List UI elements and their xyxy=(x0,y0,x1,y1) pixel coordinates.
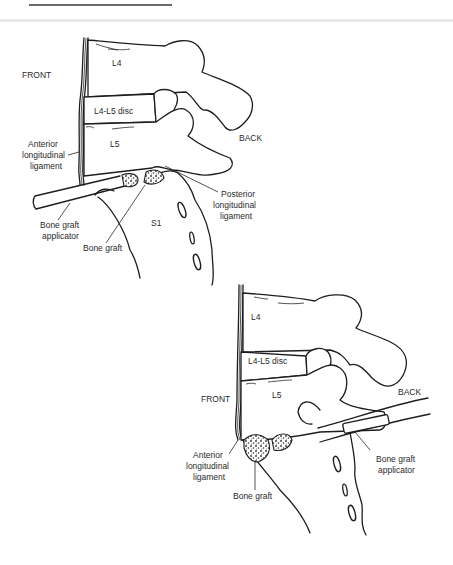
label-back-top: BACK xyxy=(239,133,262,143)
label-l5-top: L5 xyxy=(110,139,120,149)
svg-text:ligament: ligament xyxy=(220,211,253,221)
svg-text:Anterior: Anterior xyxy=(193,450,223,460)
label-back-bottom: BACK xyxy=(398,387,421,397)
svg-text:Bone graft: Bone graft xyxy=(83,243,123,253)
label-bone-graft-top: Bone graft xyxy=(83,185,145,253)
label-l4-bottom: L4 xyxy=(251,312,261,322)
label-posterior-ligament-top: Posterior longitudinal ligament xyxy=(213,189,256,221)
svg-text:Bone graft: Bone graft xyxy=(233,491,273,501)
svg-text:Posterior: Posterior xyxy=(221,189,255,199)
label-front-bottom: FRONT xyxy=(201,394,230,404)
svg-text:Anterior: Anterior xyxy=(28,139,58,149)
label-disc-top: L4-L5 disc xyxy=(94,106,134,116)
svg-text:longitudinal: longitudinal xyxy=(213,200,256,210)
bone-graft-top xyxy=(122,174,138,187)
figure-bottom: L4 L4-L5 disc L5 FRONT BACK Anterior lon… xyxy=(186,285,430,535)
svg-text:longitudinal: longitudinal xyxy=(186,461,229,471)
svg-text:Bone graft: Bone graft xyxy=(40,220,80,230)
label-l4-top: L4 xyxy=(112,58,122,68)
svg-text:ligament: ligament xyxy=(30,161,63,171)
svg-text:ligament: ligament xyxy=(193,472,226,482)
svg-text:applicator: applicator xyxy=(42,231,79,241)
label-applicator-bottom: Bone graft applicator xyxy=(376,454,416,475)
label-applicator-top: Bone graft applicator xyxy=(40,203,80,241)
label-l5-bottom: L5 xyxy=(272,390,282,400)
label-anterior-ligament-bottom: Anterior longitudinal ligament xyxy=(186,440,238,482)
label-front-top: FRONT xyxy=(22,70,51,80)
spine-illustrations: FRONT L4 L4-L5 disc L5 BACK S1 Anterior … xyxy=(0,0,453,565)
bone-graft-bottom xyxy=(244,435,270,462)
label-bone-graft-bottom: Bone graft xyxy=(233,462,273,501)
svg-text:longitudinal: longitudinal xyxy=(22,150,65,160)
label-anterior-ligament-top: Anterior longitudinal ligament xyxy=(22,139,79,171)
svg-text:Bone graft: Bone graft xyxy=(376,454,416,464)
figure-top: FRONT L4 L4-L5 disc L5 BACK S1 Anterior … xyxy=(22,38,262,285)
label-disc-bottom: L4-L5 disc xyxy=(248,356,288,366)
svg-text:applicator: applicator xyxy=(378,465,415,475)
label-s1-top: S1 xyxy=(151,218,162,228)
